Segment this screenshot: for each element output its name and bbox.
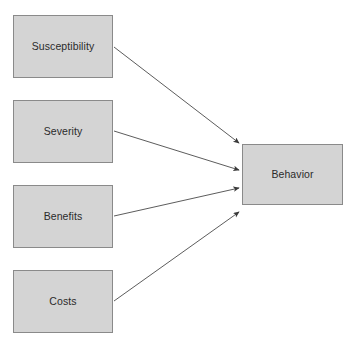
arrow-susceptibility-behavior [114, 47, 239, 143]
node-label-susceptibility: Susceptibility [32, 41, 95, 52]
node-behavior: Behavior [242, 144, 343, 205]
node-label-costs: Costs [49, 296, 76, 307]
node-susceptibility: Susceptibility [13, 15, 113, 78]
health-belief-model-diagram: Susceptibility Severity Benefits Costs B… [0, 0, 355, 349]
arrow-costs-behavior [114, 212, 239, 301]
arrow-benefits-behavior [114, 188, 239, 216]
arrow-severity-behavior [114, 131, 239, 170]
node-costs: Costs [13, 270, 113, 333]
node-benefits: Benefits [13, 185, 113, 248]
node-label-benefits: Benefits [44, 211, 83, 222]
node-label-behavior: Behavior [271, 169, 313, 180]
node-label-severity: Severity [44, 126, 83, 137]
node-severity: Severity [13, 100, 113, 163]
